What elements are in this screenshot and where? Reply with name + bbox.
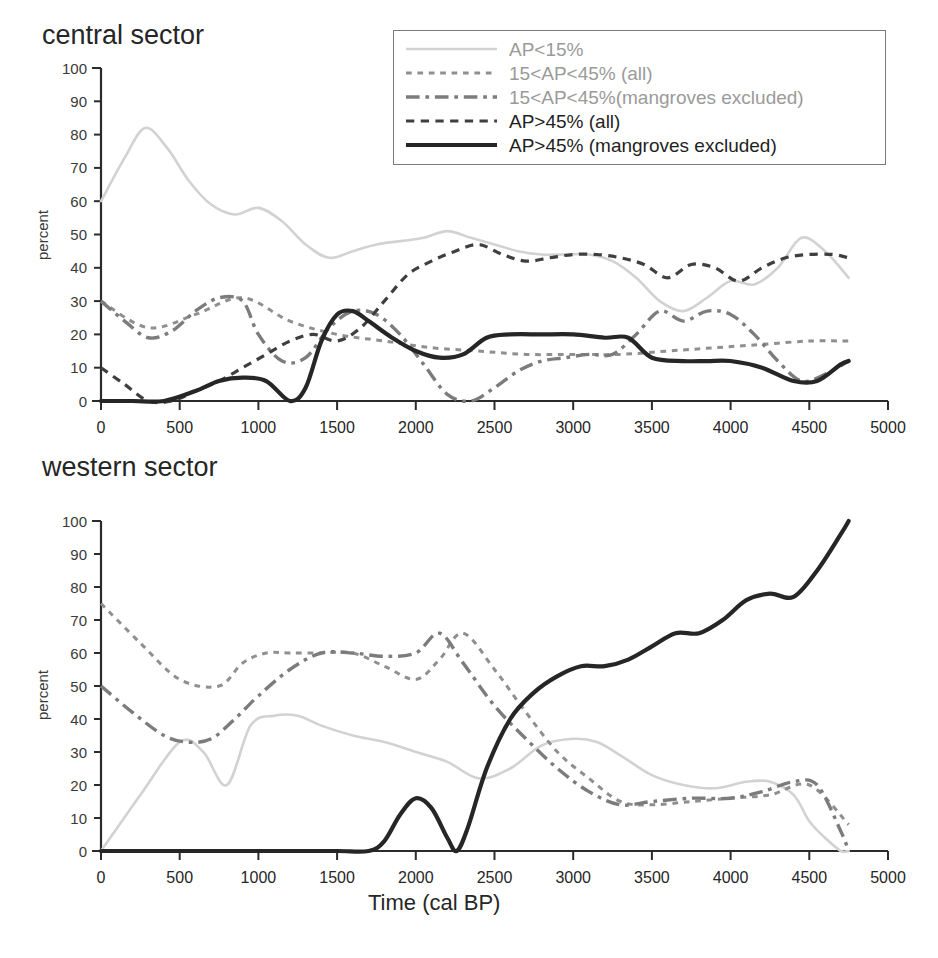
svg-text:70: 70 <box>70 612 87 629</box>
svg-text:1000: 1000 <box>241 869 277 886</box>
series-line <box>101 521 849 852</box>
svg-text:4500: 4500 <box>792 869 828 886</box>
svg-text:50: 50 <box>70 678 87 695</box>
legend-item: AP>45% (all) <box>404 109 877 133</box>
legend-label: AP>45% (all) <box>509 112 620 131</box>
svg-text:3500: 3500 <box>634 869 670 886</box>
legend-items: AP<15%15<AP<45% (all)15<AP<45%(mangroves… <box>404 37 877 157</box>
svg-text:2500: 2500 <box>477 419 513 436</box>
svg-text:500: 500 <box>166 869 193 886</box>
svg-text:3000: 3000 <box>555 869 591 886</box>
svg-text:0: 0 <box>97 419 106 436</box>
svg-text:2000: 2000 <box>398 419 434 436</box>
legend-line-sample <box>404 136 499 154</box>
series-line <box>101 296 849 401</box>
svg-text:90: 90 <box>70 93 87 110</box>
legend-item: AP>45% (mangroves excluded) <box>404 133 877 157</box>
svg-text:2500: 2500 <box>477 869 513 886</box>
svg-text:20: 20 <box>70 777 87 794</box>
svg-text:60: 60 <box>70 193 87 210</box>
series-line <box>101 310 849 401</box>
svg-text:2000: 2000 <box>398 869 434 886</box>
svg-text:90: 90 <box>70 546 87 563</box>
svg-text:30: 30 <box>70 293 87 310</box>
svg-text:60: 60 <box>70 645 87 662</box>
svg-text:0: 0 <box>97 869 106 886</box>
svg-text:30: 30 <box>70 744 87 761</box>
svg-text:4000: 4000 <box>713 869 749 886</box>
svg-text:10: 10 <box>70 359 87 376</box>
svg-text:1500: 1500 <box>319 419 355 436</box>
panel-western-sector: western sector percent Time (cal BP) 010… <box>0 450 938 958</box>
svg-text:5000: 5000 <box>870 419 906 436</box>
svg-text:3500: 3500 <box>634 419 670 436</box>
svg-text:4000: 4000 <box>713 419 749 436</box>
svg-text:1500: 1500 <box>319 869 355 886</box>
legend-line-sample <box>404 88 499 106</box>
svg-text:10: 10 <box>70 810 87 827</box>
series-line <box>101 714 849 852</box>
svg-text:4500: 4500 <box>792 419 828 436</box>
series-line <box>101 244 849 402</box>
svg-text:50: 50 <box>70 226 87 243</box>
svg-text:20: 20 <box>70 326 87 343</box>
legend-line-sample <box>404 64 499 82</box>
legend-label: AP>45% (mangroves excluded) <box>509 136 777 155</box>
figure-root: central sector percent 01020304050607080… <box>0 0 938 958</box>
svg-text:40: 40 <box>70 259 87 276</box>
legend-line-sample <box>404 112 499 130</box>
legend-item: 15<AP<45%(mangroves excluded) <box>404 85 877 109</box>
svg-text:1000: 1000 <box>241 419 277 436</box>
svg-text:70: 70 <box>70 159 87 176</box>
chart-svg-western: 0102030405060708090100050010001500200025… <box>0 450 938 890</box>
series-line <box>101 604 849 825</box>
legend-label: 15<AP<45% (all) <box>509 64 653 83</box>
legend-item: 15<AP<45% (all) <box>404 61 877 85</box>
svg-text:100: 100 <box>62 513 87 530</box>
svg-text:5000: 5000 <box>870 869 906 886</box>
legend-label: AP<15% <box>509 40 583 59</box>
svg-text:40: 40 <box>70 711 87 728</box>
x-axis-label: Time (cal BP) <box>368 890 500 916</box>
svg-text:80: 80 <box>70 126 87 143</box>
svg-text:3000: 3000 <box>555 419 591 436</box>
svg-text:0: 0 <box>79 393 87 410</box>
legend-line-sample <box>404 40 499 58</box>
legend-item: AP<15% <box>404 37 877 61</box>
svg-text:500: 500 <box>166 419 193 436</box>
legend-label: 15<AP<45%(mangroves excluded) <box>509 88 804 107</box>
plot-area-western: 0102030405060708090100050010001500200025… <box>0 450 938 890</box>
svg-text:100: 100 <box>62 60 87 77</box>
svg-text:0: 0 <box>79 843 87 860</box>
legend: AP<15%15<AP<45% (all)15<AP<45%(mangroves… <box>393 30 886 165</box>
svg-text:80: 80 <box>70 579 87 596</box>
series-line <box>101 633 849 851</box>
